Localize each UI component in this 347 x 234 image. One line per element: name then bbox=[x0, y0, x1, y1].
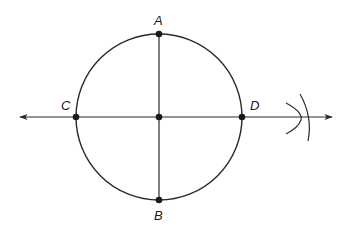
point-c bbox=[73, 114, 80, 121]
label-b: B bbox=[154, 209, 163, 222]
construction-figure bbox=[0, 0, 347, 234]
point-d bbox=[239, 114, 246, 121]
label-a: A bbox=[154, 14, 163, 27]
diagram-canvas: A B C D bbox=[0, 0, 347, 234]
label-d: D bbox=[250, 99, 259, 112]
point-a bbox=[156, 31, 163, 38]
point-b bbox=[156, 197, 163, 204]
point-center bbox=[156, 114, 163, 121]
label-c: C bbox=[61, 99, 70, 112]
compass-arc-left bbox=[286, 103, 301, 134]
